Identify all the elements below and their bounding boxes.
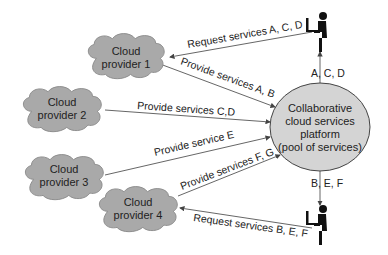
label-provide-2: Provide services C,D <box>137 99 236 118</box>
provider-1-line-1: Cloud <box>112 45 141 57</box>
cloud-provider-2: Cloud provider 2 <box>23 87 101 132</box>
cloud-provider-1: Cloud provider 1 <box>88 34 164 79</box>
platform-line-1: Collaborative <box>288 102 352 114</box>
provider-2-line-2: provider 2 <box>38 109 87 121</box>
user-icon <box>306 205 327 245</box>
platform-node: Collaborative cloud services platform (p… <box>270 83 370 171</box>
provider-3-line-2: provider 3 <box>40 176 89 188</box>
cloud-provider-4: Cloud provider 4 <box>99 187 177 232</box>
diagram-canvas: Request services A, C, D Provide service… <box>0 0 388 255</box>
platform-line-2: cloud services <box>285 115 355 127</box>
provider-4-line-2: provider 4 <box>114 209 163 221</box>
label-deliver-top: A, C, D <box>311 67 345 79</box>
platform-line-3: platform <box>300 128 340 140</box>
user-icon <box>306 12 327 52</box>
label-deliver-bottom: B, E, F <box>311 177 343 189</box>
label-request-bottom: Request services B, E, F <box>193 211 309 239</box>
provider-4-line-1: Cloud <box>124 196 153 208</box>
provider-1-line-2: provider 1 <box>102 58 151 70</box>
label-provide-1: Provide services A, B <box>179 55 276 100</box>
label-provide-4: Provide services F, G <box>178 145 275 192</box>
provider-2-line-1: Cloud <box>48 96 77 108</box>
label-provide-3: Provide service E <box>153 128 235 158</box>
provider-3-line-1: Cloud <box>50 163 79 175</box>
label-request-top: Request services A, C, D <box>186 18 303 50</box>
cloud-provider-3: Cloud provider 3 <box>25 155 103 200</box>
platform-line-4: (pool of services) <box>278 141 362 153</box>
